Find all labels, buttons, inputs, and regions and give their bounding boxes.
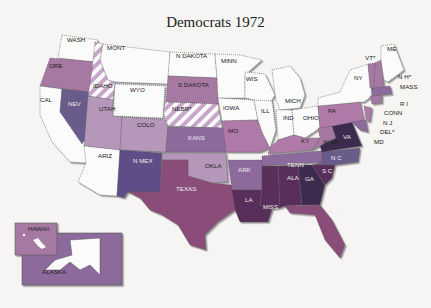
state-label: S C [322,167,333,174]
state-label: TENN [287,161,304,168]
state-ky [268,135,320,154]
state-label: VA [343,133,352,140]
state-label: GA [305,175,315,182]
state-label: KANS [188,134,205,141]
state-label: MISS [263,203,278,210]
state-label: IND [283,114,294,121]
state-label: KY [301,137,309,144]
state-label: VT* [365,54,376,61]
state-nj [364,106,372,122]
state-label: MD [374,138,384,145]
state-label: NEBR* [172,105,192,112]
state-label: NEV [68,100,82,107]
state-label: WYO [130,86,145,93]
state-label: WASH [67,36,85,43]
state-label: MO [228,127,238,134]
inset-alaska-hawaii [15,223,122,285]
state-label: WIS [246,75,258,82]
state-label: R I [400,100,408,107]
state-label: OHIO [303,114,319,121]
state-label: W VA [323,138,339,145]
state-label: N C [331,154,342,161]
state-conn [370,95,382,104]
state-label: ALA [287,174,300,181]
state-label: OKLA [205,162,222,169]
state-label: FLA [328,208,340,215]
state-label: N DAKOTA [176,52,208,59]
state-label: MASS [400,83,418,90]
state-label: IOWA [223,104,240,111]
state-label: N H* [398,73,412,80]
state-label: ORE [49,62,62,69]
state-label: ME [387,45,396,52]
state-label: COLO [137,121,155,128]
us-map: HAWAII ALASKA WASHMONTN DAKOTAMINNOREIDA… [0,0,431,308]
state-label: MONT [107,44,125,51]
label-hawaii: HAWAII [28,225,50,232]
state-ark [228,160,262,190]
state-ohio [292,106,320,138]
state-label: N MEX [133,157,153,164]
state-label: CAL [40,96,53,103]
state-label: CONN [384,109,402,116]
state-label: MINN [221,57,237,64]
state-label: UTAH [99,105,115,112]
state-label: N J [383,119,392,126]
state-label: S DAKOTA [178,81,210,88]
state-label: ILL [261,107,270,114]
state-label: ARK [238,166,252,173]
label-alaska: ALASKA [42,268,67,275]
state-label: PA [328,107,337,114]
state-label: NY [354,74,363,81]
state-label: LA [245,196,253,203]
state-label: IDAHO [93,82,113,89]
state-ny [318,64,372,106]
state-label: DEL* [380,128,395,135]
state-label: TEXAS [176,185,196,192]
state-label: ARIZ [98,152,112,159]
state-label: MICH [285,97,301,104]
